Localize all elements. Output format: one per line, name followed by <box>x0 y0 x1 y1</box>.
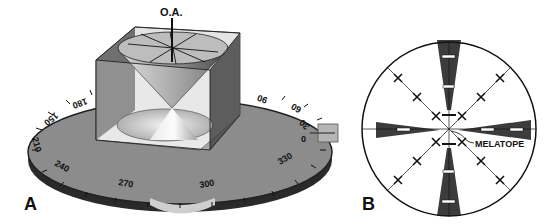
crystal-block: O.A. <box>96 6 240 150</box>
panel-label-a: A <box>24 194 37 215</box>
tick-label-0: 0 <box>301 134 306 144</box>
figure-canvas: 180 150 90 60 30 0 330 300 270 240 210 <box>0 0 549 224</box>
block-front <box>96 60 210 150</box>
panel-label-b: B <box>362 194 375 215</box>
interference-figure: MELATOPE <box>362 40 536 216</box>
center-dash-bottom <box>442 143 456 145</box>
melatope-label: MELATOPE <box>475 139 524 149</box>
tick-label-60: 60 <box>289 101 303 115</box>
tick-label-90: 90 <box>256 93 269 106</box>
optic-axis-label: O.A. <box>160 6 183 18</box>
tick-label-180: 180 <box>71 96 89 111</box>
center-dash-top <box>442 114 456 116</box>
